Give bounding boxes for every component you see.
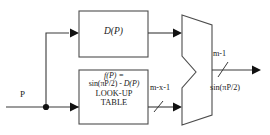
arrowhead-output (252, 66, 261, 75)
lut-label-line-2: sin(πP/2) - D(P) (72, 80, 156, 88)
lut-line2-func: D(P) (124, 79, 140, 88)
branch-wire-to-dp-block (46, 33, 69, 107)
diagram-vector-layer (0, 0, 270, 135)
output-label-sine: sin(πP/2) (210, 84, 240, 93)
lut-label-line-4: TABLE (72, 99, 156, 108)
lut-line2-mid: P/2) - (104, 79, 123, 88)
arrowhead-mux-input-lower (173, 103, 182, 112)
arrowhead-into-dp-block (70, 29, 79, 38)
lut-line2-prefix: sin( (89, 79, 101, 88)
block-diagram-canvas: D(P) f(P) = sin(πP/2) - D(P) LOOK-UP TAB… (0, 0, 270, 135)
dp-block-label: D(P) (79, 27, 148, 37)
bus-width-label-lut: m-x-1 (150, 84, 170, 93)
lut-block-label-group: f(P) = sin(πP/2) - D(P) LOOK-UP TABLE (72, 72, 156, 107)
mux-shape (182, 15, 212, 125)
input-label-p: P (20, 90, 25, 99)
junction-dot (43, 104, 49, 110)
arrowhead-mux-input-upper (173, 29, 182, 38)
bus-width-label-output: m-1 (213, 50, 226, 59)
